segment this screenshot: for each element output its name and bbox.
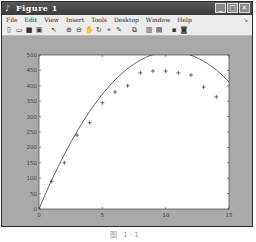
- y-tick-label: 500: [27, 52, 38, 58]
- legend-icon[interactable]: ▤: [155, 26, 163, 34]
- y-tick-label: 100: [27, 175, 38, 181]
- close-button[interactable]: ✕: [239, 3, 250, 13]
- y-tick-label: 50: [30, 191, 37, 197]
- y-tick-label: 150: [27, 160, 38, 166]
- figure-toolbar: ▯▭■▣↖⊕⊖✋↻⌖✎⧉▥▤▪◙: [2, 25, 252, 36]
- figure-caption: 图 1-1: [110, 229, 141, 239]
- x-tick-label: 5: [101, 212, 105, 218]
- menu-window[interactable]: Window: [146, 15, 170, 25]
- brush-icon[interactable]: ✎: [115, 26, 123, 34]
- save-icon[interactable]: ■: [25, 26, 33, 34]
- x-tick-label: 0: [37, 212, 41, 218]
- link-plot-icon[interactable]: ⧉: [130, 26, 138, 34]
- menu-bar: FileEditViewInsertToolsDesktopWindowHelp: [2, 15, 252, 25]
- new-figure-icon[interactable]: ▯: [5, 26, 13, 34]
- x-tick-label: 10: [162, 212, 169, 218]
- maximize-button[interactable]: □: [227, 3, 238, 13]
- menu-help[interactable]: Help: [177, 15, 192, 25]
- title-bar[interactable]: ♪ Figure 1 _ □ ✕: [2, 2, 252, 15]
- y-tick-label: 300: [27, 114, 38, 120]
- matlab-figure-icon: ♪: [5, 4, 13, 13]
- axes-box: [39, 55, 229, 209]
- open-file-icon[interactable]: ▭: [15, 26, 23, 34]
- figure-canvas: 050100150200250300350400450500051015: [2, 37, 252, 226]
- zoom-out-icon[interactable]: ⊖: [75, 26, 83, 34]
- minimize-button[interactable]: _: [215, 3, 226, 13]
- window-title: Figure 1: [16, 2, 58, 15]
- print-icon[interactable]: ▣: [35, 26, 43, 34]
- plot-axes[interactable]: 050100150200250300350400450500051015: [2, 37, 252, 226]
- menu-tools[interactable]: Tools: [91, 15, 107, 25]
- menu-view[interactable]: View: [44, 15, 59, 25]
- show-plot-tools-icon[interactable]: ◙: [180, 26, 188, 34]
- colorbar-icon[interactable]: ▥: [145, 26, 153, 34]
- menu-edit[interactable]: Edit: [25, 15, 38, 25]
- data-cursor-icon[interactable]: ⌖: [105, 26, 113, 34]
- hide-plot-tools-icon[interactable]: ▪: [170, 26, 178, 34]
- figure-window: ♪ Figure 1 _ □ ✕ FileEditViewInsertTools…: [1, 1, 253, 227]
- edit-plot-icon[interactable]: ↖: [50, 26, 58, 34]
- zoom-in-icon[interactable]: ⊕: [65, 26, 73, 34]
- y-tick-label: 450: [27, 67, 38, 73]
- y-tick-label: 350: [27, 98, 38, 104]
- pan-icon[interactable]: ✋: [85, 26, 93, 34]
- y-tick-label: 400: [27, 83, 38, 89]
- menu-file[interactable]: File: [6, 15, 18, 25]
- menubar-dock-arrow-icon[interactable]: ↘: [243, 15, 248, 25]
- menu-insert[interactable]: Insert: [66, 15, 84, 25]
- y-tick-label: 250: [27, 129, 38, 135]
- y-tick-label: 200: [27, 144, 38, 150]
- rotate-3d-icon[interactable]: ↻: [95, 26, 103, 34]
- x-tick-label: 15: [226, 212, 233, 218]
- menu-desktop[interactable]: Desktop: [114, 15, 139, 25]
